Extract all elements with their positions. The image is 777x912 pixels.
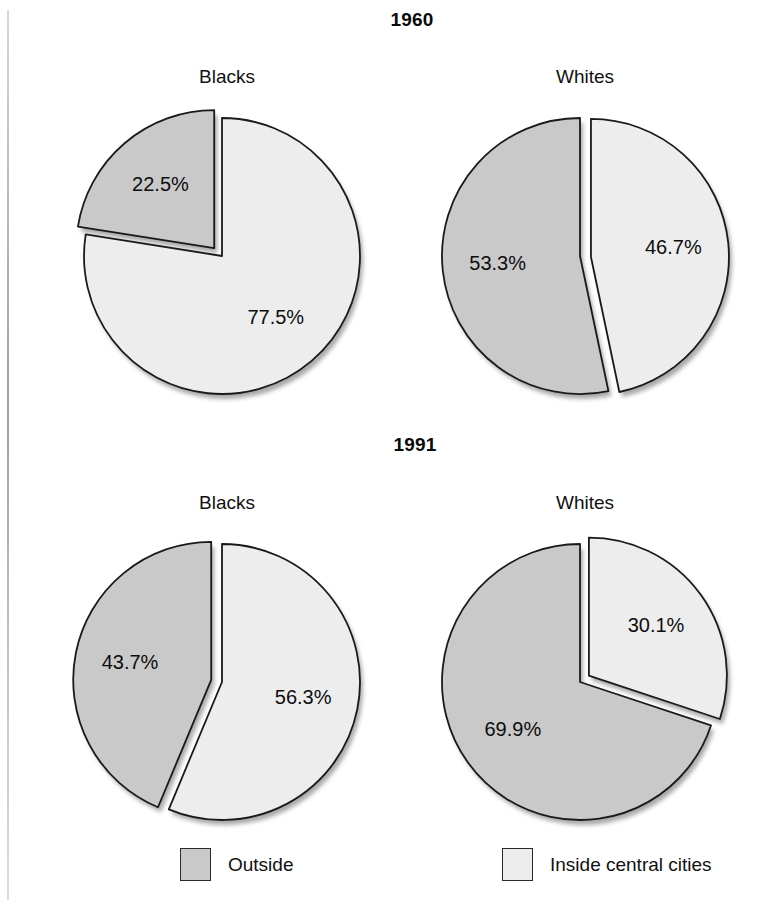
pie-chart-1960-whites: 53.3%46.7% — [420, 98, 750, 428]
pie-title-1991-blacks: Blacks — [117, 492, 337, 514]
section-title-1991: 1991 — [285, 434, 545, 456]
slice-value-label: 56.3% — [275, 686, 332, 708]
slice-value-label: 22.5% — [132, 173, 189, 195]
pie-chart-1960-blacks: 22.5%77.5% — [62, 98, 392, 428]
slice-value-label: 43.7% — [102, 651, 159, 673]
pie-title-1960-blacks: Blacks — [117, 66, 337, 88]
section-title-1960: 1960 — [282, 9, 542, 31]
slice-value-label: 46.7% — [645, 236, 702, 258]
legend-label-outside: Outside — [228, 854, 293, 876]
pie-chart-1991-whites: 69.9%30.1% — [420, 524, 750, 854]
legend-item-inside: Inside central cities — [502, 848, 712, 881]
pie-chart-1991-blacks: 43.7%56.3% — [62, 524, 392, 854]
pie-title-1991-whites: Whites — [475, 492, 695, 514]
slice-value-label: 53.3% — [469, 252, 526, 274]
legend-item-outside: Outside — [180, 848, 293, 881]
legend-swatch-inside — [502, 848, 533, 881]
pie-title-1960-whites: Whites — [475, 66, 695, 88]
slice-value-label: 69.9% — [485, 718, 542, 740]
legend-label-inside: Inside central cities — [550, 854, 712, 876]
slice-value-label: 77.5% — [247, 306, 304, 328]
legend-swatch-outside — [180, 848, 211, 881]
page-edge-artifact — [7, 10, 9, 900]
slice-value-label: 30.1% — [628, 614, 685, 636]
